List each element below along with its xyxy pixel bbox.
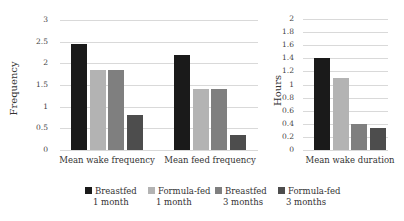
legend-label: Breastfed	[95, 186, 137, 196]
legend-item: Formula-fed3 months	[278, 186, 340, 208]
y-tick-label: 2	[270, 15, 294, 23]
legend-label: Formula-fed	[158, 186, 210, 196]
bar	[370, 128, 386, 150]
gridline	[303, 45, 388, 46]
bar	[314, 58, 330, 150]
y-axis-label: Hours	[272, 66, 283, 116]
y-tick-label: 1	[24, 103, 48, 111]
y-tick-label: 0	[24, 146, 48, 154]
bar	[211, 89, 227, 150]
legend-label: Formula-fed	[288, 186, 340, 196]
y-tick-label: 2.5	[24, 38, 48, 46]
bar	[230, 135, 246, 150]
bar	[90, 70, 106, 150]
gridline	[303, 32, 388, 33]
legend-sublabel: 3 months	[278, 197, 340, 208]
y-tick-label: 2	[24, 59, 48, 67]
y-tick-label: 0	[270, 146, 294, 154]
legend-swatch-icon	[215, 187, 222, 194]
y-tick-label: 3	[24, 16, 48, 24]
category-label: Mean feed frequency	[160, 155, 260, 165]
legend-item: Breastfed1 month	[85, 186, 137, 208]
legend-sublabel: 1 month	[85, 197, 137, 208]
y-tick-label: 1.8	[270, 28, 294, 36]
bar	[127, 115, 143, 150]
y-tick-label: 0.5	[24, 124, 48, 132]
legend-swatch-icon	[148, 187, 155, 194]
gridline	[60, 63, 258, 64]
category-label: Mean wake duration	[300, 155, 400, 165]
legend-sublabel: 1 month	[148, 197, 210, 208]
legend-item: Formula-fed1 month	[148, 186, 210, 208]
y-tick-label: 1.5	[24, 81, 48, 89]
gridline	[60, 42, 258, 43]
y-tick-label: 1.4	[270, 54, 294, 62]
bar	[71, 44, 87, 150]
gridline	[303, 150, 388, 151]
bar	[333, 78, 349, 150]
legend-swatch-icon	[278, 187, 285, 194]
legend-sublabel: 3 months	[215, 197, 267, 208]
bar	[193, 89, 209, 150]
y-tick-label: 0.2	[270, 133, 294, 141]
y-axis-label: Frequency	[8, 66, 19, 116]
legend-item: Breastfed3 months	[215, 186, 267, 208]
y-tick-label: 0.4	[270, 120, 294, 128]
legend-swatch-icon	[85, 187, 92, 194]
legend-label: Breastfed	[225, 186, 267, 196]
y-tick-label: 1.6	[270, 41, 294, 49]
bar	[351, 124, 367, 150]
bar	[174, 55, 190, 150]
bar	[108, 70, 124, 150]
gridline	[303, 19, 388, 20]
category-label: Mean wake frequency	[57, 155, 157, 165]
gridline	[60, 150, 258, 151]
gridline	[60, 20, 258, 21]
